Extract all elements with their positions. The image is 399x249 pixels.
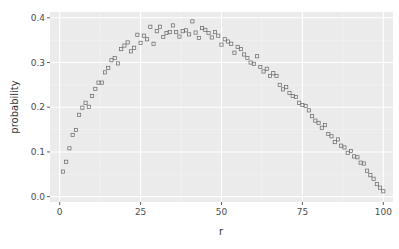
x-tick-label: 75 — [297, 207, 308, 217]
y-tick-label: 0.4 — [31, 13, 46, 23]
y-axis-ticks: 0.00.10.20.30.4 — [31, 13, 50, 202]
x-tick-label: 100 — [375, 207, 392, 217]
y-tick-label: 0.0 — [31, 192, 46, 202]
x-tick-label: 0 — [57, 207, 63, 217]
y-tick-label: 0.1 — [31, 147, 45, 157]
y-axis-title: probability — [9, 80, 20, 133]
x-tick-label: 25 — [135, 207, 146, 217]
x-axis-ticks: 0255075100 — [57, 202, 392, 217]
y-tick-label: 0.3 — [31, 58, 45, 68]
scatter-chart: 0255075100 0.00.10.20.30.4 r probability — [0, 0, 399, 249]
x-axis-title: r — [219, 226, 224, 237]
x-tick-label: 50 — [216, 207, 228, 217]
y-tick-label: 0.2 — [31, 102, 45, 112]
